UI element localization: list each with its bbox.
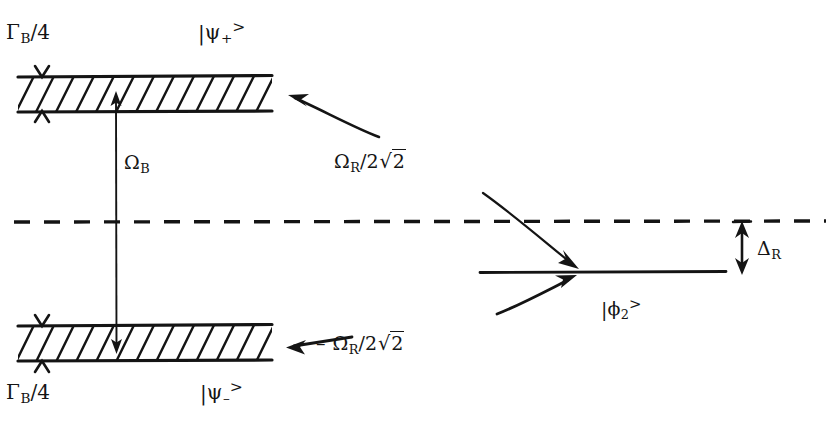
phi-symbol-2: ϕ	[607, 297, 620, 319]
gamma-rest-top: /4	[30, 20, 49, 44]
omega-r-minus-rest: /2	[358, 332, 377, 354]
sqrt-group-plus: √2	[378, 150, 405, 172]
label-gamma-b-over-4-bottom: ΓB/4	[6, 382, 50, 406]
psi-minus-width-marker	[35, 315, 49, 372]
label-ket-phi-2: |ϕ2>	[601, 297, 642, 322]
psi-subscript-minus: –	[222, 390, 229, 406]
ket-bar-psi-minus: |	[200, 383, 207, 403]
psi-minus-band-bottom-edge	[18, 360, 272, 361]
label-omega-r-over-2root2-plus: ΩR/2√2	[334, 152, 406, 175]
label-omega-b: ΩB	[124, 153, 150, 176]
delta-r-arrow	[733, 221, 751, 275]
ket-bar-psi-plus: |	[198, 23, 205, 43]
label-delta-r: ΔR	[757, 239, 781, 262]
omega-symbol-r-plus: Ω	[334, 150, 350, 172]
energy-level-diagram: ΓB/4 |ψ+> ΩB ΩR/2√2 –ΩR/2√2 ΓB/4 |ψ–> |ϕ…	[0, 0, 829, 443]
gamma-subscript-bottom: B	[20, 390, 31, 406]
level-psi-minus-band	[14, 321, 296, 366]
ket-close-phi-2: >	[629, 295, 641, 312]
psi-plus-band-top-edge	[18, 76, 272, 78]
omega-r-plus-rest: /2	[360, 150, 379, 172]
gamma-symbol-top: Γ	[6, 20, 20, 44]
delta-subscript-r: R	[771, 247, 781, 262]
sqrt-group-minus: √2	[377, 332, 404, 354]
radicand-minus: 2	[390, 331, 404, 354]
psi-plus-width-marker	[35, 66, 49, 122]
omega-r-plus-pointer-arrow	[288, 94, 379, 137]
reference-dashed-line	[14, 221, 826, 222]
diagram-canvas	[0, 0, 829, 443]
delta-symbol-r: Δ	[757, 237, 771, 259]
phi2-pointer-lower-arrow	[497, 275, 577, 314]
omega-subscript-b: B	[140, 161, 150, 176]
psi-symbol-minus: ψ	[207, 380, 223, 404]
level-phi-2	[480, 272, 726, 273]
label-omega-r-over-2root2-minus: –ΩR/2√2	[316, 334, 404, 357]
phi-subscript-2: 2	[620, 307, 629, 322]
omega-symbol-r-minus: Ω	[333, 332, 349, 354]
minus-sign-omega-r: –	[316, 332, 333, 354]
radicand-plus: 2	[392, 149, 406, 172]
ket-close-psi-minus: >	[230, 378, 243, 396]
omega-subscript-r-plus: R	[350, 160, 360, 175]
gamma-subscript-top: B	[20, 30, 31, 46]
sqrt-icon-plus: √	[379, 150, 391, 173]
ket-close-psi-plus: >	[232, 18, 245, 36]
label-gamma-b-over-4-top: ΓB/4	[6, 22, 50, 46]
label-ket-psi-minus: |ψ–>	[200, 380, 243, 405]
gamma-symbol-bottom: Γ	[6, 380, 20, 404]
hatching-psi-plus	[14, 72, 296, 116]
psi-symbol-plus: ψ	[205, 20, 221, 44]
psi-plus-band-bottom-edge	[18, 111, 272, 112]
gamma-rest-bottom: /4	[30, 380, 49, 404]
sqrt-icon-minus: √	[378, 332, 390, 355]
ket-bar-phi-2: |	[601, 300, 607, 319]
omega-subscript-r-minus: R	[348, 342, 358, 357]
phi2-pointer-upper-arrow	[483, 193, 579, 269]
psi-minus-band-top-edge	[18, 325, 272, 327]
level-psi-plus-band	[14, 72, 296, 116]
label-ket-psi-plus: |ψ+>	[198, 20, 245, 45]
psi-subscript-plus: +	[220, 30, 232, 46]
omega-symbol-b: Ω	[124, 151, 140, 173]
